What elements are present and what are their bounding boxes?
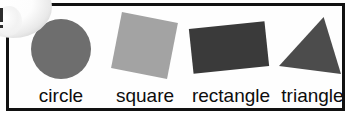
triangle-shape[interactable] xyxy=(279,17,341,79)
shapes-flashcard: circle square rectangle triangle xyxy=(0,0,353,120)
rectangle-shape[interactable] xyxy=(189,21,269,74)
square-shape[interactable] xyxy=(111,12,178,79)
labels-row: circle square rectangle triangle xyxy=(19,84,350,112)
corner-edge-mark xyxy=(0,8,3,22)
card-frame: circle square rectangle triangle xyxy=(6,3,345,111)
shape-slot-triangle[interactable] xyxy=(275,12,350,84)
label-square: square xyxy=(103,84,187,108)
shape-slot-square[interactable] xyxy=(103,12,187,84)
corner-edge-dot xyxy=(0,25,3,28)
label-triangle: triangle xyxy=(275,84,350,108)
label-rectangle: rectangle xyxy=(187,84,275,108)
shapes-row xyxy=(19,12,350,84)
shape-slot-rectangle[interactable] xyxy=(187,12,275,84)
label-circle: circle xyxy=(19,84,103,108)
